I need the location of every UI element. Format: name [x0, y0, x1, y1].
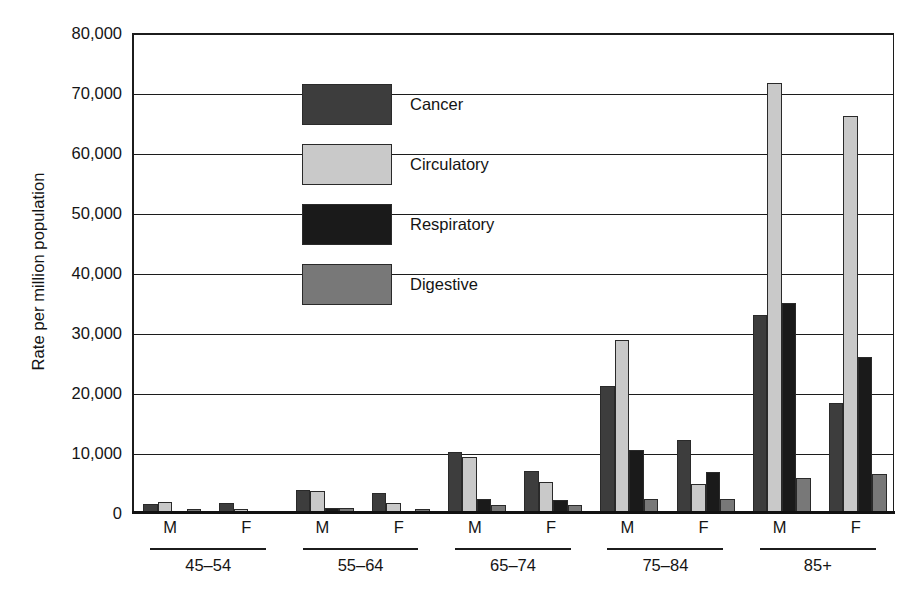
y-tick-label-80000: 80,000 [12, 24, 122, 43]
bar-circulatory-55-64-m[interactable] [310, 491, 325, 513]
legend-label-respiratory: Respiratory [410, 215, 494, 234]
bar-cancer-85--m[interactable] [753, 315, 768, 513]
x-axis-group-rule [607, 548, 723, 550]
x-axis-group-rule [150, 548, 266, 550]
bar-respiratory-75-84-f[interactable] [706, 472, 721, 513]
x-axis-sex-label-75-84-F: F [698, 518, 708, 537]
legend-label-cancer: Cancer [410, 95, 463, 114]
y-axis-tick-labels: 010,00020,00030,00040,00050,00060,00070,… [0, 0, 122, 615]
bar-cancer-65-74-m[interactable] [448, 452, 463, 513]
chart-legend: CancerCirculatoryRespiratoryDigestive [302, 74, 602, 314]
x-axis-group-rule [760, 548, 876, 550]
bar-cancer-55-64-m[interactable] [296, 490, 311, 513]
x-axis-sex-label-45-54-M: M [163, 518, 177, 537]
bar-digestive-85--f[interactable] [872, 474, 887, 513]
legend-label-digestive: Digestive [410, 275, 478, 294]
y-tick-label-0: 0 [12, 504, 122, 523]
bar-digestive-85--m[interactable] [796, 478, 811, 513]
x-axis-group-label: 45–54 [132, 556, 284, 575]
bar-respiratory-85--m[interactable] [782, 303, 797, 513]
x-axis-group-55-64: MF55–64 [284, 514, 436, 614]
x-axis-group-label: 55–64 [284, 556, 436, 575]
plot-area: CancerCirculatoryRespiratoryDigestive [132, 33, 894, 513]
bar-respiratory-75-84-m[interactable] [629, 450, 644, 513]
legend-swatch-circulatory [302, 144, 392, 185]
x-axis-sex-label-65-74-M: M [468, 518, 482, 537]
x-axis-sex-label-45-54-F: F [241, 518, 251, 537]
x-axis-group-label: 65–74 [437, 556, 589, 575]
legend-item-digestive[interactable]: Digestive [302, 254, 602, 314]
y-tick-label-40000: 40,000 [12, 264, 122, 283]
y-tick-label-60000: 60,000 [12, 144, 122, 163]
legend-swatch-digestive [302, 264, 392, 305]
bar-circulatory-65-74-f[interactable] [539, 482, 554, 513]
legend-label-circulatory: Circulatory [410, 155, 489, 174]
legend-swatch-cancer [302, 84, 392, 125]
mortality-rate-bar-chart: Rate per million population 010,00020,00… [0, 0, 919, 615]
x-axis: MF45–54MF55–64MF65–74MF75–84MF85+ [132, 514, 894, 614]
legend-item-circulatory[interactable]: Circulatory [302, 134, 602, 194]
bar-circulatory-85--f[interactable] [843, 116, 858, 513]
y-tick-label-30000: 30,000 [12, 324, 122, 343]
x-axis-sex-label-55-64-F: F [394, 518, 404, 537]
y-tick-label-50000: 50,000 [12, 204, 122, 223]
bar-respiratory-85--f[interactable] [858, 357, 873, 513]
x-axis-group-label: 75–84 [589, 556, 741, 575]
x-axis-group-rule [455, 548, 571, 550]
legend-swatch-respiratory [302, 204, 392, 245]
bar-cancer-65-74-f[interactable] [524, 471, 539, 513]
bar-cancer-75-84-m[interactable] [600, 386, 615, 513]
x-axis-sex-label-55-64-M: M [316, 518, 330, 537]
x-axis-sex-label-75-84-M: M [620, 518, 634, 537]
y-tick-label-20000: 20,000 [12, 384, 122, 403]
x-axis-group-rule [303, 548, 419, 550]
bar-circulatory-75-84-f[interactable] [691, 484, 706, 513]
x-axis-group-65-74: MF65–74 [437, 514, 589, 614]
bar-circulatory-65-74-m[interactable] [462, 457, 477, 513]
x-axis-group-45-54: MF45–54 [132, 514, 284, 614]
x-axis-sex-label-85--F: F [851, 518, 861, 537]
y-tick-label-70000: 70,000 [12, 84, 122, 103]
bar-cancer-75-84-f[interactable] [677, 440, 692, 513]
legend-item-respiratory[interactable]: Respiratory [302, 194, 602, 254]
y-tick-label-10000: 10,000 [12, 444, 122, 463]
x-axis-sex-label-65-74-F: F [546, 518, 556, 537]
x-axis-group-85-: MF85+ [742, 514, 894, 614]
x-axis-group-label: 85+ [742, 556, 894, 575]
x-axis-group-75-84: MF75–84 [589, 514, 741, 614]
bar-circulatory-85--m[interactable] [767, 83, 782, 513]
bar-circulatory-75-84-m[interactable] [615, 340, 630, 513]
x-axis-sex-label-85--M: M [773, 518, 787, 537]
bar-cancer-85--f[interactable] [829, 403, 844, 513]
legend-item-cancer[interactable]: Cancer [302, 74, 602, 134]
